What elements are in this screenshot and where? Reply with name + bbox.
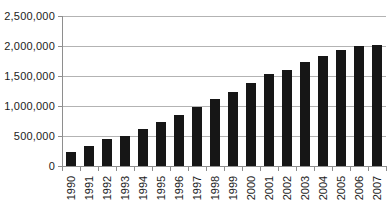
x-axis-tick	[206, 167, 207, 171]
x-tick-label: 2007	[371, 173, 383, 203]
x-axis-tick	[80, 167, 81, 171]
bar	[138, 129, 148, 166]
x-axis-tick	[62, 167, 63, 171]
x-tick-label: 1998	[209, 173, 221, 203]
y-tick-label: 0	[0, 160, 55, 172]
bar	[228, 92, 238, 166]
y-tick-label: 2,500,000	[0, 10, 55, 22]
bar	[102, 139, 112, 166]
chart-figure: 0500,0001,000,0001,500,0002,000,0002,500…	[0, 0, 389, 210]
x-axis-tick	[350, 167, 351, 171]
x-tick-label: 2005	[335, 173, 347, 203]
x-tick-label: 1991	[83, 173, 95, 203]
bar	[84, 146, 94, 166]
x-axis-tick	[278, 167, 279, 171]
x-tick-label: 1996	[173, 173, 185, 203]
x-axis-tick	[368, 167, 369, 171]
bar	[174, 115, 184, 166]
bar	[354, 46, 364, 166]
x-tick-label: 2004	[317, 173, 329, 203]
x-axis-tick	[188, 167, 189, 171]
bar	[66, 152, 76, 166]
y-tick-label: 1,500,000	[0, 70, 55, 82]
x-tick-label: 2001	[263, 173, 275, 203]
bar	[246, 83, 256, 166]
x-axis-tick	[242, 167, 243, 171]
bar	[192, 107, 202, 166]
y-tick-label: 500,000	[0, 130, 55, 142]
gridline	[62, 16, 386, 17]
x-axis-tick	[152, 167, 153, 171]
y-tick-label: 1,000,000	[0, 100, 55, 112]
x-axis-tick	[296, 167, 297, 171]
x-tick-label: 1990	[65, 173, 77, 203]
bar	[336, 50, 346, 166]
x-tick-label: 1994	[137, 173, 149, 203]
x-tick-label: 1992	[101, 173, 113, 203]
y-axis-line	[62, 16, 63, 166]
x-axis-tick	[98, 167, 99, 171]
x-tick-label: 1999	[227, 173, 239, 203]
x-tick-label: 1993	[119, 173, 131, 203]
y-tick-label: 2,000,000	[0, 40, 55, 52]
x-tick-label: 2006	[353, 173, 365, 203]
bar	[156, 122, 166, 166]
x-axis-tick	[314, 167, 315, 171]
x-axis-tick	[224, 167, 225, 171]
bar	[300, 62, 310, 166]
x-tick-label: 1997	[191, 173, 203, 203]
x-tick-label: 2002	[281, 173, 293, 203]
bar	[120, 136, 130, 166]
bar	[210, 99, 220, 166]
x-tick-label: 2000	[245, 173, 257, 203]
x-tick-label: 2003	[299, 173, 311, 203]
x-axis-tick	[332, 167, 333, 171]
bar	[372, 45, 382, 166]
x-axis-tick	[386, 167, 387, 171]
x-axis-tick	[116, 167, 117, 171]
x-axis-tick	[170, 167, 171, 171]
bar	[282, 70, 292, 166]
x-tick-label: 1995	[155, 173, 167, 203]
bar	[264, 74, 274, 166]
gridline	[62, 46, 386, 47]
x-axis-tick	[134, 167, 135, 171]
x-axis-tick	[260, 167, 261, 171]
bar	[318, 56, 328, 166]
